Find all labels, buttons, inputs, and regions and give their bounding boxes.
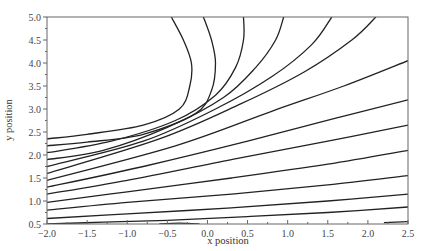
contour-11-line [47, 176, 408, 211]
y-tick-label: 3.5 [29, 81, 42, 92]
y-tick-label: 2.5 [29, 127, 42, 138]
y-tick-label: 0.5 [29, 219, 42, 230]
contour-1-line [47, 17, 192, 139]
contour-5-line [47, 17, 332, 167]
y-axis-label: y position [3, 98, 14, 140]
x-tick-label: −1.5 [78, 228, 96, 239]
contour-chart: −2.0−1.5−1.0−0.50.00.51.01.52.02.5 0.51.… [0, 0, 425, 251]
y-tick-label: 2.0 [29, 150, 42, 161]
plot-frame [47, 17, 408, 224]
contour-7-line [47, 61, 408, 181]
x-axis-label: x position [207, 235, 249, 246]
contour-4-line [47, 17, 284, 160]
x-tick-label: 1.5 [322, 228, 335, 239]
y-axis: 0.51.01.52.02.53.03.54.04.55.0 [29, 12, 48, 230]
contour-12-line [47, 194, 408, 218]
y-tick-label: 1.5 [29, 173, 42, 184]
y-tick-label: 1.0 [29, 196, 42, 207]
x-tick-label: 1.0 [281, 228, 294, 239]
x-tick-label: −0.5 [158, 228, 176, 239]
y-tick-label: 4.5 [29, 35, 42, 46]
x-tick-label: −1.0 [118, 228, 136, 239]
y-tick-label: 3.0 [29, 104, 42, 115]
x-tick-label: −2.0 [38, 228, 56, 239]
x-tick-label: 2.5 [402, 228, 415, 239]
y-tick-label: 5.0 [29, 12, 42, 23]
x-tick-label: 2.0 [362, 228, 375, 239]
y-tick-label: 4.0 [29, 58, 42, 69]
contour-lines [47, 17, 408, 224]
